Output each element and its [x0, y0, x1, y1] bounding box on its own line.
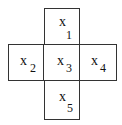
cell-right: x 4	[79, 44, 117, 81]
cell-left-var: x	[20, 54, 27, 68]
cell-bottom: x 5	[44, 80, 80, 120]
cell-top-sub: 1	[66, 29, 72, 41]
cell-left: x 2	[8, 44, 44, 81]
cell-top: x 1	[44, 8, 80, 45]
cell-top-var: x	[59, 15, 66, 29]
cell-right-var: x	[91, 54, 98, 68]
cell-bottom-var: x	[59, 90, 66, 104]
cell-right-sub: 4	[100, 62, 106, 74]
cell-center-sub: 3	[66, 62, 72, 74]
cell-center: x 3	[43, 44, 80, 81]
cell-bottom-sub: 5	[67, 102, 73, 114]
cell-left-sub: 2	[30, 62, 36, 74]
cell-center-var: x	[57, 54, 64, 68]
